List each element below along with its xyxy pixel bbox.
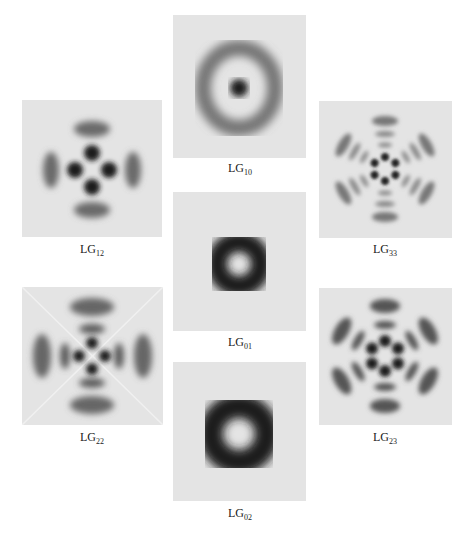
beam-panel-lg01	[173, 192, 306, 331]
label-lg01: LG01	[200, 335, 280, 351]
label-lg23: LG23	[345, 430, 425, 446]
beam-panel-lg12	[22, 100, 162, 237]
beam-pattern-lg12	[22, 100, 162, 237]
beam-panel-lg33	[319, 101, 452, 238]
beam-panel-lg23	[319, 288, 452, 425]
label-lg12: LG12	[52, 242, 132, 258]
beam-pattern-lg23	[319, 288, 452, 425]
beam-pattern-lg01	[173, 192, 306, 331]
label-lg22: LG22	[52, 430, 132, 446]
label-lg10: LG10	[200, 161, 280, 177]
beam-panel-lg02	[173, 362, 306, 501]
beam-pattern-lg33	[319, 101, 452, 238]
beam-pattern-lg22	[22, 287, 163, 425]
beam-panel-lg22	[22, 287, 163, 425]
beam-pattern-lg02	[173, 362, 306, 501]
beam-pattern-lg10	[173, 15, 306, 158]
label-lg33: LG33	[345, 242, 425, 258]
beam-panel-lg10	[173, 15, 306, 158]
label-lg02: LG02	[200, 506, 280, 522]
